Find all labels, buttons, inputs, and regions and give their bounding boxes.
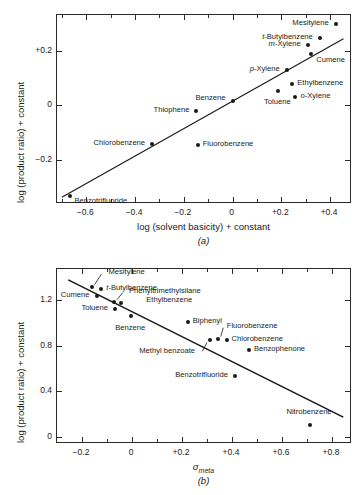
data-point-label: Methyl benzoate <box>139 348 195 356</box>
data-point-label: Benzene <box>196 94 226 102</box>
x-tick-label-b-4: +0.6 <box>273 448 290 457</box>
y-axis-title-b: log (product ratio) + constant <box>16 322 26 443</box>
data-point <box>112 300 116 304</box>
x-tick-label-b-1: 0 <box>129 448 134 457</box>
y-axis-title-a: log (product ratio) + constant <box>16 82 26 203</box>
y-tick-label-b-1: 0.8 <box>26 340 52 349</box>
data-point <box>233 374 237 378</box>
x-tick-label-b-2: +0.2 <box>173 448 190 457</box>
y-tick-label-b-3: 0 <box>26 432 52 441</box>
x-tick-label-b-3: +0.4 <box>223 448 240 457</box>
data-point-label: Benzene <box>115 324 145 332</box>
sigma-subscript: meta <box>199 467 215 474</box>
data-point-label: Biphenyl <box>193 317 222 325</box>
data-point-label: Phenyltrimethylsilane <box>129 287 201 295</box>
data-point-label: Ethylbenzene <box>297 79 343 87</box>
y-tick-label-a-0: +0.2 <box>26 45 52 54</box>
figure-caption-b: (b) <box>198 476 210 486</box>
data-point-label: p-Xylene <box>250 65 280 73</box>
x-tick-label-a-1: −0.4 <box>126 208 143 217</box>
figure-b: log (product ratio) + constant σmeta (b)… <box>0 248 360 495</box>
data-point-label: Toluene <box>264 98 291 106</box>
data-point-label: Nitrobenzene <box>286 408 331 416</box>
y-tick-label-b-0: 1.2 <box>26 295 52 304</box>
y-tick-label-a-1: 0 <box>26 100 52 109</box>
data-point-label: Chlorobenzene <box>232 336 284 344</box>
data-point <box>95 294 99 298</box>
data-point-label: Benzotrifluoride <box>175 371 228 379</box>
regression-line-a <box>62 39 344 197</box>
label-leader-line <box>117 293 123 300</box>
data-point <box>186 320 190 324</box>
data-point <box>285 68 289 72</box>
fit-line-overlay-b <box>57 269 352 444</box>
data-point-label: t-Butylbenzene <box>262 33 313 41</box>
y-tick-label-b-2: 0.4 <box>26 386 52 395</box>
data-point <box>216 337 220 341</box>
plot-area-a <box>56 14 351 203</box>
data-point <box>308 423 312 427</box>
data-point-label: Thiophene <box>154 106 190 114</box>
data-point-label: Chlorobenzene <box>94 139 146 147</box>
x-tick-label-a-0: −0.6 <box>77 208 94 217</box>
label-leader-line <box>95 274 102 285</box>
data-point-label: Cumene <box>61 291 90 299</box>
data-point <box>318 36 322 40</box>
data-point-label: Cumene <box>316 56 345 64</box>
data-point-label: Benzophenone <box>254 345 305 353</box>
data-point-label: Fluorobenzene <box>203 140 254 148</box>
data-point <box>196 143 200 147</box>
x-tick-label-a-2: −0.2 <box>174 208 191 217</box>
data-point-label: Toluene <box>81 304 108 312</box>
figure-caption-a: (a) <box>198 236 210 246</box>
data-point-label: Mesitylene <box>292 20 328 28</box>
x-axis-title-a: log (solvent basicity) + constant <box>137 222 270 232</box>
data-point-label: Mesitylene <box>109 268 145 276</box>
x-tick-label-b-0: −0.2 <box>73 448 90 457</box>
x-tick-label-a-3: 0 <box>229 208 234 217</box>
data-point-label: Benzotrifluoride <box>74 197 127 205</box>
x-tick-label-a-5: +0.4 <box>321 208 338 217</box>
label-leader-line <box>221 328 224 337</box>
data-point <box>247 348 251 352</box>
data-point <box>334 22 338 26</box>
data-point <box>231 99 235 103</box>
x-tick-label-b-5: +0.8 <box>323 448 340 457</box>
plot-area-b <box>56 268 351 443</box>
data-point-label: Fluorobenzene <box>227 322 278 330</box>
x-axis-title-b: σmeta <box>193 462 214 474</box>
data-point <box>90 285 94 289</box>
y-tick-label-a-2: −0.2 <box>26 155 52 164</box>
figure-a: log (product ratio) + constant log (solv… <box>0 0 360 248</box>
x-tick-label-a-4: +0.2 <box>272 208 289 217</box>
data-point-label: o-Xylene <box>300 92 330 100</box>
data-point <box>306 43 310 47</box>
data-point-label: Ethylbenzene <box>146 296 192 304</box>
